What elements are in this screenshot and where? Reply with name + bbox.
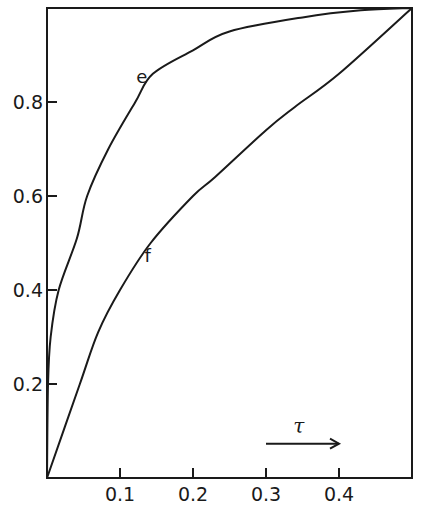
- y-tick-label: 0.4: [13, 279, 43, 301]
- curve-label-e: e: [136, 66, 147, 87]
- plot-frame: [47, 8, 412, 478]
- chart: 0.10.20.30.40.20.40.60.8 efτ: [0, 0, 422, 506]
- x-axis-label-tau: τ: [293, 414, 305, 438]
- y-tick-label: 0.2: [13, 373, 43, 395]
- x-tick-label: 0.1: [105, 483, 135, 505]
- curve-e: [47, 8, 412, 478]
- curve-f: [47, 8, 412, 478]
- x-tick-label: 0.3: [251, 483, 281, 505]
- annotations: efτ: [136, 66, 339, 448]
- x-tick-label: 0.4: [324, 483, 354, 505]
- y-tick-label: 0.6: [13, 185, 43, 207]
- curve-label-f: f: [145, 245, 152, 266]
- curves: [47, 8, 412, 478]
- x-tick-label: 0.2: [178, 483, 208, 505]
- axes-box: [47, 8, 412, 478]
- y-tick-label: 0.8: [13, 91, 43, 113]
